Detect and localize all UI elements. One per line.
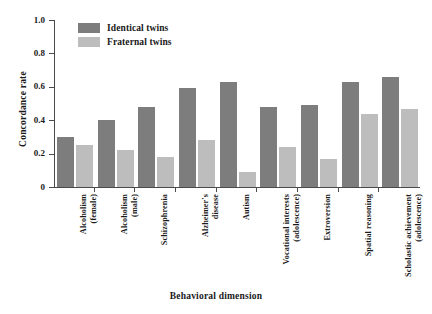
y-tick-label: 0 [41, 183, 46, 192]
bar-group [382, 20, 418, 187]
x-tick-mark [378, 187, 379, 192]
y-tick-label: 1.0 [34, 16, 45, 25]
bar-fraternal [279, 147, 296, 187]
x-tick-mark [175, 187, 176, 192]
bar-fraternal [76, 145, 93, 187]
bar-fraternal [157, 157, 174, 187]
y-tick-label: 0.4 [34, 116, 45, 125]
y-tick-label: 0.6 [34, 82, 45, 91]
bar-group [179, 20, 215, 187]
bar-fraternal [320, 159, 337, 187]
bar-identical [260, 107, 277, 187]
legend-item-identical-twins: Identical twins [78, 22, 172, 34]
bar-identical [342, 82, 359, 187]
bar-identical [57, 137, 74, 187]
legend-label-identical: Identical twins [107, 23, 168, 33]
bar-group [220, 20, 256, 187]
x-tick-mark [256, 187, 257, 192]
bar-fraternal [401, 109, 418, 187]
x-axis-line [54, 187, 420, 188]
y-tick-mark [49, 187, 54, 188]
bar-group [342, 20, 378, 187]
bar-fraternal [361, 114, 378, 187]
legend-swatch-icon-identical [78, 23, 100, 33]
bar-fraternal [117, 150, 134, 187]
x-tick-mark [94, 187, 95, 192]
y-tick-label: 0.2 [34, 149, 45, 158]
bar-identical [98, 120, 115, 187]
legend-item-fraternal-twins: Fraternal twins [78, 36, 172, 48]
bar-identical [220, 82, 237, 187]
legend-label-fraternal: Fraternal twins [107, 37, 172, 47]
legend-swatch-icon-fraternal [78, 37, 100, 47]
bar-identical [179, 88, 196, 187]
x-tick-mark [216, 187, 217, 192]
bar-group [301, 20, 337, 187]
y-tick-label: 0.8 [34, 49, 45, 58]
bar-identical [138, 107, 155, 187]
x-axis-title: Behavioral dimension [0, 291, 432, 301]
bar-identical [301, 105, 318, 187]
chart-legend: Identical twins Fraternal twins [78, 22, 172, 50]
y-axis-title: Concordance rate [18, 24, 28, 194]
bar-fraternal [239, 172, 256, 187]
x-tick-mark [338, 187, 339, 192]
x-tick-mark [297, 187, 298, 192]
x-tick-mark [134, 187, 135, 192]
bar-identical [382, 77, 399, 187]
bar-chart-figure: Concordance rate 1.00.80.60.40.20 Alcoho… [0, 0, 432, 314]
bar-group [260, 20, 296, 187]
bar-fraternal [198, 140, 215, 187]
